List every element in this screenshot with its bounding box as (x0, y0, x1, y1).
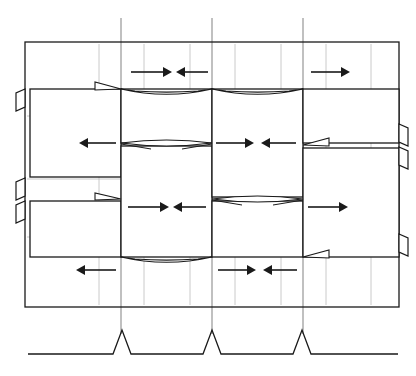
connector-left-middle (16, 178, 25, 200)
block-right-upper (303, 89, 399, 143)
connector-right-bottom (399, 234, 408, 256)
block-mid1-upper (121, 89, 212, 143)
block-left-upper (30, 89, 121, 177)
connector-right-middle (399, 147, 408, 169)
block-left-lower (30, 201, 121, 257)
diagram-canvas (0, 0, 416, 376)
connector-right-top (399, 124, 408, 146)
connector-left-top (16, 89, 25, 111)
structural-blocks-layer (30, 89, 399, 257)
block-mid1-lower (121, 146, 212, 257)
block-right-lower (303, 148, 399, 257)
connector-left-bottom (16, 201, 25, 223)
structural-deformation-diagram (0, 0, 416, 376)
block-mid2-lower (212, 201, 303, 257)
